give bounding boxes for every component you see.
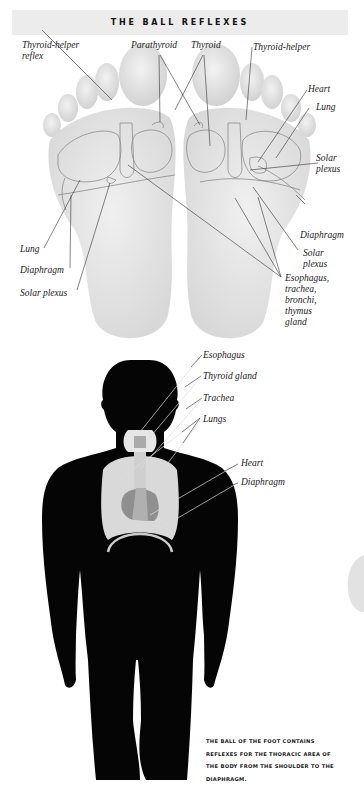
label-heart-foot: Heart — [308, 84, 330, 95]
label-thyroid: Thyroid — [191, 40, 221, 51]
label-diaphragm-right: Diaphragm — [300, 230, 344, 241]
label-solar-plexus-left: Solar plexus — [20, 288, 67, 299]
page-edge-shape — [348, 555, 364, 612]
label-lungs: Lungs — [203, 414, 226, 425]
caption-line-3: THE BODY FROM THE SHOULDER TO THE — [206, 760, 356, 773]
caption-line-2: REFLEXES FOR THE THORACIC AREA OF — [206, 748, 356, 761]
label-thyroid-helper-reflex: Thyroid-helper reflex — [22, 40, 79, 62]
label-lung-right: Lung — [316, 102, 336, 113]
label-esophagus-group: Esophagus, trachea, bronchi, thymus glan… — [285, 273, 329, 328]
label-solar-plexus-right-bottom: Solar plexus — [303, 248, 327, 270]
label-heart-body: Heart — [241, 458, 263, 469]
label-diaphragm-body: Diaphragm — [241, 477, 285, 488]
label-thyroid-helper: Thyroid-helper — [253, 42, 310, 53]
label-trachea: Trachea — [203, 393, 234, 404]
label-thyroid-gland: Thyroid gland — [203, 371, 257, 382]
label-parathyroid: Parathyroid — [131, 40, 177, 51]
reflex-illustration — [0, 0, 364, 802]
label-diaphragm-left: Diaphragm — [20, 265, 64, 276]
organs — [101, 430, 179, 552]
caption-line-4: DIAPHRAGM. — [206, 773, 356, 786]
caption-line-1: THE BALL OF THE FOOT CONTAINS — [206, 735, 356, 748]
label-solar-plexus-right-top: Solar plexus — [316, 153, 340, 175]
label-lung-left: Lung — [20, 244, 40, 255]
label-esophagus: Esophagus — [203, 350, 245, 361]
caption: THE BALL OF THE FOOT CONTAINS REFLEXES F… — [206, 735, 356, 785]
